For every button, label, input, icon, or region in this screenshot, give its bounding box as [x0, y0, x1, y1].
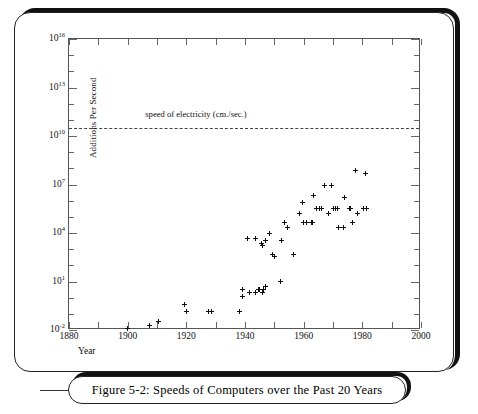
x-tick-top [128, 39, 129, 45]
x-tick [392, 322, 393, 328]
y-tick [69, 168, 74, 169]
scatter-point [184, 309, 189, 314]
y-tick-right [414, 217, 419, 218]
x-tick-top [392, 39, 393, 45]
speed-of-electricity-label: speed of electricity (cm./sec.) [145, 109, 246, 119]
scatter-point [263, 284, 268, 289]
y-tick [69, 233, 77, 234]
x-tick-top [216, 39, 217, 45]
x-tick-top [157, 39, 158, 45]
x-tick [216, 322, 217, 328]
x-tick-top [69, 39, 70, 45]
y-tick [69, 298, 74, 299]
scatter-point [285, 225, 290, 230]
scatter-point [253, 236, 258, 241]
y-tick [69, 201, 74, 202]
y-tick [69, 185, 77, 186]
x-tick-label: 1960 [294, 332, 313, 342]
scatter-point [125, 326, 130, 331]
x-tick-top [362, 39, 363, 45]
y-tick [69, 104, 74, 105]
scatter-point [350, 220, 355, 225]
y-tick [69, 249, 74, 250]
y-tick [69, 55, 74, 56]
y-tick-label: 1013 [49, 83, 65, 93]
x-tick-top [421, 39, 422, 45]
caption-connector-line [40, 390, 70, 391]
scatter-point [279, 238, 284, 243]
y-tick-right [411, 282, 419, 283]
scatter-point [291, 252, 296, 257]
scatter-point [319, 206, 324, 211]
scatter-point [300, 200, 305, 205]
y-tick-right [411, 88, 419, 89]
x-tick-top [304, 39, 305, 45]
y-tick [69, 71, 74, 72]
scatter-point [297, 211, 302, 216]
y-tick-right [414, 120, 419, 121]
y-tick-right [414, 71, 419, 72]
x-axis-title: Year [78, 346, 96, 356]
scatter-point [335, 206, 340, 211]
scatter-point [240, 287, 245, 292]
y-tick-right [414, 298, 419, 299]
figure-caption-box: Figure 5-2: Speeds of Computers over the… [68, 376, 406, 404]
scatter-point [311, 193, 316, 198]
x-tick-label: 1900 [118, 332, 137, 342]
scatter-point [341, 225, 346, 230]
y-tick [69, 282, 77, 283]
scatter-point [348, 206, 353, 211]
x-tick [333, 322, 334, 328]
scatter-point [364, 206, 369, 211]
y-tick-label: 104 [52, 228, 65, 238]
x-tick-top [333, 39, 334, 45]
y-tick-right [414, 55, 419, 56]
scatter-point [353, 168, 358, 173]
x-tick [304, 322, 305, 328]
x-tick [98, 322, 99, 328]
x-tick-label: 1980 [353, 332, 372, 342]
y-tick [69, 136, 77, 137]
y-tick-right [414, 152, 419, 153]
y-tick-right [414, 249, 419, 250]
y-tick-right [411, 185, 419, 186]
speed-of-electricity-line [69, 128, 419, 129]
scatter-point [363, 171, 368, 176]
scatter-plot-area: 10161013101010710410110-2 18801900192019… [68, 38, 420, 329]
scatter-point [147, 323, 152, 328]
x-tick-label: 2000 [412, 332, 431, 342]
scatter-point [326, 211, 331, 216]
scatter-point [310, 220, 315, 225]
y-tick-right [414, 104, 419, 105]
y-tick-right [411, 39, 419, 40]
scatter-point [156, 319, 161, 324]
x-tick [362, 322, 363, 328]
x-tick-label: 1940 [236, 332, 255, 342]
scatter-point [267, 231, 272, 236]
y-tick [69, 120, 74, 121]
y-tick-right [411, 136, 419, 137]
x-tick [69, 322, 70, 328]
y-tick-right [414, 265, 419, 266]
scatter-point [355, 211, 360, 216]
y-tick-right [411, 233, 419, 234]
y-tick-right [414, 314, 419, 315]
scatter-point [278, 279, 283, 284]
scatter-point [263, 238, 268, 243]
x-tick [186, 322, 187, 328]
scatter-point [342, 195, 347, 200]
y-tick [69, 152, 74, 153]
x-tick-top [186, 39, 187, 45]
x-tick [245, 322, 246, 328]
scatter-point [237, 309, 242, 314]
x-tick-label: 1920 [177, 332, 196, 342]
x-tick [421, 322, 422, 328]
figure-caption-text: Figure 5-2: Speeds of Computers over the… [92, 383, 383, 398]
y-tick [69, 265, 74, 266]
scatter-point [182, 302, 187, 307]
y-axis-title: Additions Per Second [88, 78, 98, 159]
x-tick-top [98, 39, 99, 45]
y-tick [69, 88, 77, 89]
scatter-point [245, 236, 250, 241]
x-tick [274, 322, 275, 328]
